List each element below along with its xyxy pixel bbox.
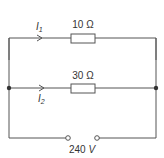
lower-branch (7, 84, 158, 93)
circuit-diagram: I1 10 Ω 30 Ω I2 240 V (0, 0, 164, 158)
upper-right-wire (95, 38, 156, 60)
current-label-i1: I1 (36, 21, 43, 33)
upper-left-wire (9, 38, 71, 60)
junction-dot-right (154, 86, 158, 90)
supply (9, 136, 156, 141)
upper-branch (9, 34, 156, 60)
resistor-label-10: 10 Ω (72, 19, 94, 30)
resistor-30-ohm (71, 84, 95, 93)
terminal-right (95, 136, 100, 141)
resistor-10-ohm (71, 34, 95, 43)
current-label-i2: I2 (38, 93, 45, 105)
junction-dot-left (7, 86, 11, 90)
resistor-label-30: 30 Ω (72, 70, 94, 81)
terminal-left (66, 136, 71, 141)
voltage-label: 240 V (69, 144, 96, 155)
